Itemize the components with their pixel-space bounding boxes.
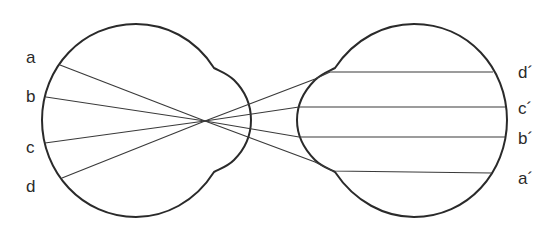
eye-projection-diagram (0, 0, 553, 229)
right-eyeball-outline (297, 24, 507, 217)
left-eyeball-outline (42, 24, 251, 217)
label-b-prime: b´ (518, 130, 533, 147)
ray-d-prime (205, 72, 493, 121)
label-d: d (26, 178, 35, 195)
ray-c-left (45, 121, 205, 143)
label-b: b (26, 88, 35, 105)
label-c-prime: c´ (518, 100, 532, 117)
ray-b-left (46, 97, 205, 121)
label-c: c (26, 139, 35, 156)
ray-d-left (62, 121, 205, 178)
label-d-prime: d´ (518, 64, 533, 81)
label-a-prime: a´ (518, 170, 533, 187)
label-a: a (26, 49, 35, 66)
ray-a-left (60, 65, 205, 121)
